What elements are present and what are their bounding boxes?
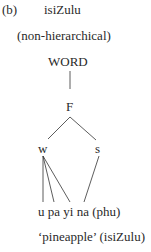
node-foot: F (66, 100, 73, 113)
edge-w-pa (43, 156, 54, 202)
edge-f-s (70, 117, 96, 140)
node-strong: s (95, 142, 100, 155)
edge-w-yi (43, 156, 70, 202)
edge-s-na (84, 156, 99, 202)
edge-f-w (48, 117, 70, 139)
node-weak: w (38, 142, 47, 155)
segments-row: u pa yi na (phu) (38, 205, 120, 218)
gloss-row: ‘pineapple’ (isiZulu) (38, 230, 145, 243)
